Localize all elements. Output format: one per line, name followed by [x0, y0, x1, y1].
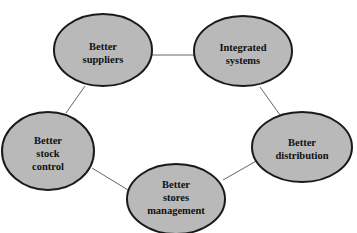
- edge-stock-suppliers: [66, 86, 85, 113]
- node-label-line: Better: [89, 41, 117, 52]
- edge-integrated-distribution: [260, 87, 280, 115]
- node-better-distribution: Better distribution: [252, 112, 352, 182]
- cycle-diagram: Better suppliers Integrated systems Bett…: [0, 0, 357, 233]
- node-integrated-systems: Integrated systems: [194, 16, 292, 86]
- node-label-line: management: [147, 205, 205, 216]
- node-label-line: systems: [226, 55, 260, 66]
- node-label-line: Better: [34, 135, 62, 146]
- node-label-line: Better: [162, 179, 190, 190]
- node-label-line: stores: [163, 192, 189, 203]
- node-label-line: distribution: [275, 150, 328, 161]
- edge-distribution-stores: [223, 160, 258, 180]
- node-label-line: Integrated: [219, 42, 266, 53]
- node-better-stores-management: Better stores management: [127, 164, 225, 233]
- node-label-line: suppliers: [83, 54, 124, 65]
- node-better-stock-control: Better stock control: [2, 112, 94, 190]
- node-label-line: stock: [36, 148, 59, 159]
- node-better-suppliers: Better suppliers: [54, 14, 152, 86]
- edge-stores-stock: [92, 168, 128, 190]
- node-label-line: control: [32, 161, 64, 172]
- node-label-line: Better: [288, 137, 316, 148]
